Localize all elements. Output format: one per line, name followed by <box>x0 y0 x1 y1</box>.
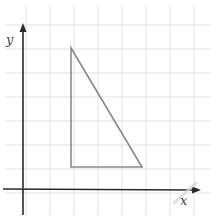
coordinate-plane: y x <box>0 0 213 218</box>
y-axis <box>20 23 27 215</box>
y-axis-arrow-icon <box>20 23 27 32</box>
right-triangle <box>71 48 142 167</box>
x-axis-label: x <box>180 193 188 208</box>
x-axis-arrow-icon <box>192 187 201 194</box>
y-axis-label: y <box>5 32 14 47</box>
x-axis <box>3 187 201 194</box>
